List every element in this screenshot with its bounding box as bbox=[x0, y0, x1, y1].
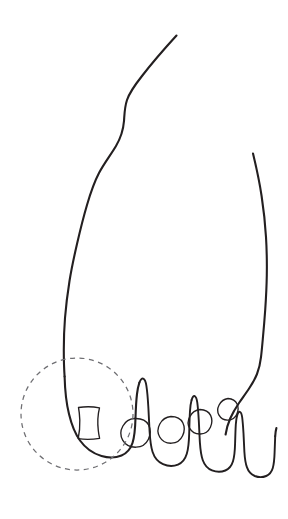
foot-line-drawing bbox=[0, 0, 288, 519]
figure-canvas: Foot outline line drawing bbox=[0, 0, 288, 519]
little-toe-and-right-outline bbox=[275, 428, 276, 436]
